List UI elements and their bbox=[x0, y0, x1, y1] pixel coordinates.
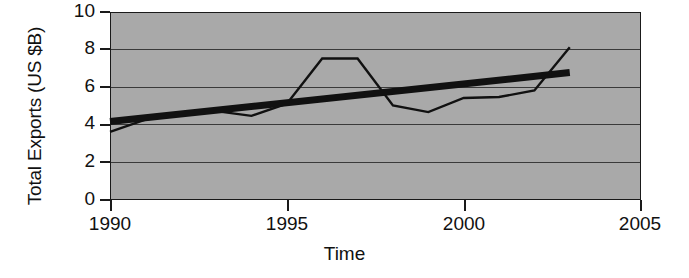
x-tick-mark bbox=[287, 200, 289, 211]
export-trend-chart: Total Exports (US $B) 10 8 6 4 2 0 1990 … bbox=[0, 0, 689, 278]
x-tick-label: 1990 bbox=[75, 213, 145, 235]
x-tick-mark bbox=[110, 200, 112, 211]
x-axis-title: Time bbox=[0, 243, 689, 265]
x-tick-label: 1995 bbox=[252, 213, 322, 235]
x-tick-mark bbox=[640, 200, 642, 211]
x-tick-label: 2005 bbox=[605, 213, 675, 235]
x-tick-mark bbox=[464, 200, 466, 211]
series-line-total-exports bbox=[110, 47, 570, 132]
chart-series-layer bbox=[0, 0, 689, 278]
x-tick-label: 2000 bbox=[429, 213, 499, 235]
